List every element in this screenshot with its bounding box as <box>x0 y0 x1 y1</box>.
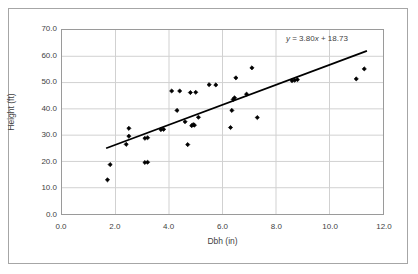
trendline <box>106 51 367 148</box>
data-point <box>188 90 192 94</box>
data-point <box>127 126 131 130</box>
x-tick-label: 8.0 <box>256 222 296 231</box>
data-point <box>124 142 128 146</box>
plot-area <box>61 29 384 215</box>
data-point <box>250 66 254 70</box>
trendline-equation-label: y = 3.80x + 18.73 <box>286 34 348 43</box>
data-point <box>362 67 366 71</box>
data-point <box>186 143 190 147</box>
plot-canvas <box>62 30 383 214</box>
x-tick-label: 0.0 <box>41 222 81 231</box>
data-point <box>255 115 259 119</box>
x-tick-label: 6.0 <box>203 222 243 231</box>
data-point <box>234 76 238 80</box>
data-point <box>228 125 232 129</box>
x-tick-label: 12.0 <box>364 222 404 231</box>
data-point <box>196 115 200 119</box>
x-axis-title: Dbh (in) <box>61 236 384 246</box>
vertical-gridlines <box>116 30 330 214</box>
data-point <box>105 178 109 182</box>
y-axis-title: Height (ft) <box>6 82 16 142</box>
x-tick-label: 4.0 <box>149 222 189 231</box>
trendline-segment <box>106 51 367 148</box>
data-point <box>194 90 198 94</box>
data-point <box>354 77 358 81</box>
data-point <box>108 163 112 167</box>
data-point <box>170 89 174 93</box>
data-point <box>207 83 211 87</box>
equation-body: = 3.80 <box>290 34 315 43</box>
equation-tail: + 18.73 <box>319 34 348 43</box>
x-tick-label: 10.0 <box>310 222 350 231</box>
data-point <box>214 83 218 87</box>
data-point <box>178 89 182 93</box>
chart-figure: 0.010.020.030.040.050.060.070.0 0.02.04.… <box>0 0 418 274</box>
x-tick-label: 2.0 <box>95 222 135 231</box>
data-points <box>105 66 366 182</box>
